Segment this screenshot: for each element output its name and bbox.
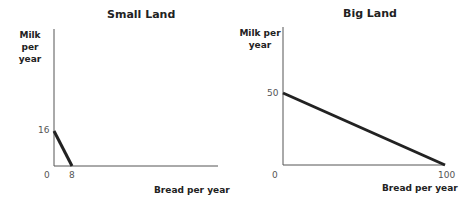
right-x-axis-label: Bread per year xyxy=(382,183,458,193)
right-chart-title: Big Land xyxy=(343,7,397,20)
left-ppf-line xyxy=(54,131,72,166)
right-y-tick-50: 50 xyxy=(267,88,278,98)
left-y-tick-16: 16 xyxy=(38,125,49,135)
left-ylabel-line2: year xyxy=(10,53,50,65)
right-y-axis-label: Milk per year xyxy=(238,27,282,51)
right-ppf-line xyxy=(283,93,445,165)
right-origin-label: 0 xyxy=(272,170,278,180)
left-chart-title: Small Land xyxy=(107,8,175,21)
left-y-axis-label: Milk per year xyxy=(10,29,50,65)
right-x-tick-100: 100 xyxy=(438,170,455,180)
left-x-axis-label: Bread per year xyxy=(154,185,230,195)
left-origin-label: 0 xyxy=(44,170,50,180)
right-ylabel-line2: year xyxy=(238,39,282,51)
right-ylabel-line1: Milk per xyxy=(238,27,282,39)
left-x-tick-8: 8 xyxy=(69,170,75,180)
left-ylabel-line1: Milk per xyxy=(10,29,50,53)
